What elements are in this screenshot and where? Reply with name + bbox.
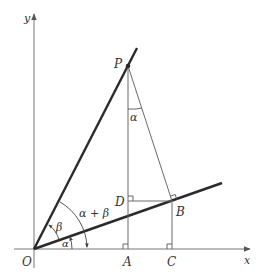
angle-label-alpha-at-P: α (130, 111, 138, 124)
angle-label-alpha-plus-beta: α + β (79, 207, 109, 220)
point-label-P: P (113, 57, 123, 71)
angle-label-beta: β (55, 221, 62, 234)
right-angle-A-icon (123, 244, 128, 249)
axis-label-y: y (23, 12, 31, 25)
right-angle-C-icon (167, 244, 172, 249)
point-label-C: C (167, 255, 176, 269)
point-label-B: B (175, 205, 185, 219)
angle-alpha-arc-icon (70, 237, 72, 249)
point-P-dot (126, 64, 131, 69)
point-label-D: D (114, 195, 125, 209)
axis-label-x: x (244, 254, 251, 267)
trig-sum-identity-diagram: y x O P A C D B α α + β β α (0, 0, 263, 278)
right-angle-D-icon (128, 196, 133, 201)
angle-alpha-at-P-arc (128, 108, 142, 109)
origin-label-O: O (22, 255, 32, 269)
angle-label-alpha: α (62, 238, 69, 249)
point-label-A: A (122, 255, 132, 269)
segment-PB (128, 66, 172, 201)
